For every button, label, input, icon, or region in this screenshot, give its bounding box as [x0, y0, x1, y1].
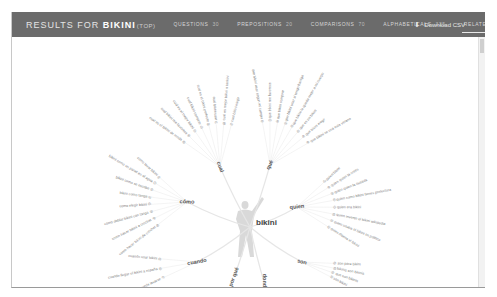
- qualifier: (TOP): [137, 23, 156, 29]
- leaf-question[interactable]: ◎ quien era bikini: [333, 205, 361, 209]
- tab-label: PREPOSITIONS: [237, 21, 282, 27]
- question-wheel-diagram: cual es el bikini de moda ◎cual bikini m…: [12, 37, 479, 287]
- branch-label[interactable]: quien: [289, 203, 305, 210]
- tab-related[interactable]: RELATED8: [464, 12, 485, 37]
- branch-cuando: cuando bikini puede lavarse ◎cuando lleg…: [108, 227, 250, 287]
- leaf-question[interactable]: que bikini usar segun mi cuerpo ◎: [251, 69, 265, 125]
- leaf-question[interactable]: ◎ cual es mejor bikini o tankini: [222, 75, 230, 124]
- results-title: RESULTS FOR BIKINI(TOP): [26, 20, 156, 30]
- branch-cual: cual es el bikini de moda ◎cual bikini m…: [148, 75, 250, 227]
- download-csv-button[interactable]: ⬇ Download CSV: [414, 12, 465, 37]
- tab-label: QUESTIONS: [174, 21, 209, 27]
- branch-label[interactable]: por qué: [227, 266, 240, 287]
- tab-count: 70: [358, 21, 365, 27]
- tab-prepositions[interactable]: PREPOSITIONS20: [237, 12, 292, 37]
- keyword: BIKINI: [103, 20, 136, 30]
- results-panel: RESULTS FOR BIKINI(TOP) QUESTIONS30 PREP…: [11, 12, 485, 288]
- leaf-question[interactable]: ◎ que bikini me favorece: [268, 82, 272, 122]
- branch-como: como hacer bikini de crochet ◎como hacer…: [104, 154, 250, 256]
- tab-count: 30: [212, 21, 219, 27]
- results-header: RESULTS FOR BIKINI(TOP) QUESTIONS30 PREP…: [12, 12, 485, 37]
- leaf-question[interactable]: ◎ cual bikini elegir: [229, 96, 241, 126]
- tab-comparisons[interactable]: COMPARISONS70: [311, 12, 366, 37]
- branch-label[interactable]: cuando: [187, 257, 208, 266]
- tab-count: 20: [286, 21, 293, 27]
- leaf-question[interactable]: como elegir bikini ◎: [119, 202, 152, 208]
- leaf-question[interactable]: bikini como tanga ◎: [119, 191, 152, 199]
- leaf-question[interactable]: ◎ que bikini comprar: [275, 89, 285, 123]
- branch-label[interactable]: donde: [262, 274, 268, 287]
- leaf-question[interactable]: cual bikini usar ◎: [212, 97, 218, 126]
- leaf-question[interactable]: cuando bikini puede lavarse ◎: [119, 275, 166, 287]
- title-prefix: RESULTS FOR: [26, 20, 99, 30]
- tab-label: COMPARISONS: [311, 21, 355, 27]
- scrollbar-thumb[interactable]: [480, 39, 484, 53]
- branch-label[interactable]: cómo: [180, 198, 196, 205]
- leaf-question[interactable]: cuando usar bikini ◎: [128, 254, 162, 261]
- vertical-scrollbar[interactable]: [478, 37, 485, 287]
- branch-quien: ◎ quien bikini◎ quien quien la crees◎ qu…: [250, 166, 391, 248]
- branch-label[interactable]: cual: [216, 161, 226, 174]
- download-icon: ⬇: [414, 21, 420, 29]
- download-label: Download CSV: [424, 22, 465, 28]
- branch-label[interactable]: qué: [265, 159, 275, 170]
- root-keyword: bikini: [256, 218, 277, 227]
- tab-questions[interactable]: QUESTIONS30: [174, 12, 220, 37]
- leaf-question[interactable]: cuando llegar el bikini a españa ◎: [108, 266, 163, 280]
- tab-label: RELATED: [464, 21, 485, 27]
- leaf-question[interactable]: ◎ que bikini usar si tengo barriga: [283, 74, 305, 125]
